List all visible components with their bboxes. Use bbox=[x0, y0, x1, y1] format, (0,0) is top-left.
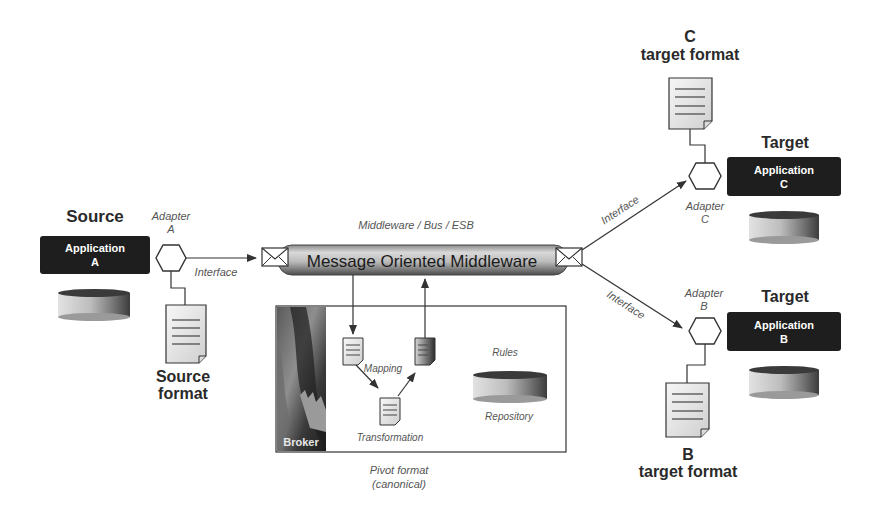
source-title: Source bbox=[66, 207, 124, 226]
application-a-id: A bbox=[91, 256, 99, 268]
connector-b bbox=[687, 344, 705, 383]
source-format-label-2: format bbox=[158, 385, 208, 402]
pivot-format-sublabel: (canonical) bbox=[372, 478, 426, 490]
target-c-group: C target format Adapter C Interface Targ… bbox=[582, 28, 841, 250]
target-b-format-document-icon[interactable] bbox=[666, 383, 709, 437]
middleware-caption: Middleware / Bus / ESB bbox=[358, 219, 474, 231]
middleware-bus: Middleware / Bus / ESB Message Oriented … bbox=[262, 219, 582, 275]
adapter-c-hexagon-icon[interactable] bbox=[689, 163, 721, 189]
connector-a bbox=[171, 271, 185, 305]
interface-b-arrow bbox=[582, 264, 682, 328]
connector-c bbox=[690, 129, 705, 163]
target-c-title: Target bbox=[761, 134, 809, 151]
application-a-box[interactable]: Application A bbox=[40, 236, 150, 274]
broker-panel: Broker Mapping Transformation Rule bbox=[276, 275, 566, 490]
database-b-icon bbox=[749, 366, 819, 399]
middleware-label: Message Oriented Middleware bbox=[307, 252, 538, 271]
application-b-box[interactable]: Application B bbox=[727, 312, 841, 351]
database-c-icon bbox=[749, 211, 819, 244]
application-c-label: Application bbox=[754, 164, 814, 176]
mapping-output-document-icon bbox=[415, 338, 435, 365]
interface-c-label: Interface bbox=[599, 193, 641, 226]
target-b-group: Interface Adapter B B target format Targ… bbox=[582, 264, 841, 480]
source-format-document-icon[interactable] bbox=[166, 305, 206, 363]
application-b-label: Application bbox=[754, 319, 814, 331]
interface-c-arrow bbox=[582, 181, 686, 250]
database-a-icon bbox=[58, 289, 130, 321]
adapter-b-label: Adapter bbox=[684, 287, 725, 299]
target-c-format-document-icon[interactable] bbox=[669, 78, 712, 129]
rules-repository-database-icon[interactable] bbox=[473, 371, 547, 403]
application-c-box[interactable]: Application C bbox=[727, 157, 841, 196]
adapter-a-id: A bbox=[166, 223, 174, 235]
adapter-a-hexagon-icon[interactable] bbox=[156, 245, 186, 271]
transformation-document-icon bbox=[380, 398, 400, 425]
mapping-label: Mapping bbox=[364, 363, 403, 374]
source-group: Source Application A Adapter A Interface… bbox=[40, 207, 256, 402]
adapter-b-hexagon-icon[interactable] bbox=[689, 318, 721, 344]
adapter-b-id: B bbox=[700, 300, 707, 312]
envelope-in-icon bbox=[262, 248, 288, 266]
broker-image bbox=[277, 307, 326, 451]
adapter-c-label: Adapter bbox=[685, 200, 726, 212]
application-a-label: Application bbox=[65, 242, 125, 254]
mapping-input-document-icon bbox=[343, 338, 363, 365]
adapter-a-label: Adapter bbox=[151, 210, 192, 222]
application-c-id: C bbox=[780, 178, 788, 190]
target-b-format-label: target format bbox=[639, 463, 738, 480]
source-format-label: Source bbox=[156, 368, 210, 385]
transformation-label: Transformation bbox=[357, 432, 424, 443]
rules-label: Rules bbox=[492, 347, 518, 358]
interface-a-label: Interface bbox=[195, 266, 238, 278]
target-c-format-label: target format bbox=[641, 46, 740, 63]
repository-label: Repository bbox=[485, 411, 534, 422]
target-b-format-id: B bbox=[682, 446, 694, 463]
application-b-id: B bbox=[780, 333, 788, 345]
target-b-title: Target bbox=[761, 288, 809, 305]
pivot-format-label: Pivot format bbox=[370, 464, 430, 476]
integration-diagram: Source Application A Adapter A Interface… bbox=[0, 0, 880, 519]
envelope-out-icon bbox=[556, 248, 582, 266]
target-c-format-id: C bbox=[684, 28, 696, 45]
adapter-c-id: C bbox=[701, 213, 709, 225]
broker-label: Broker bbox=[283, 436, 319, 448]
